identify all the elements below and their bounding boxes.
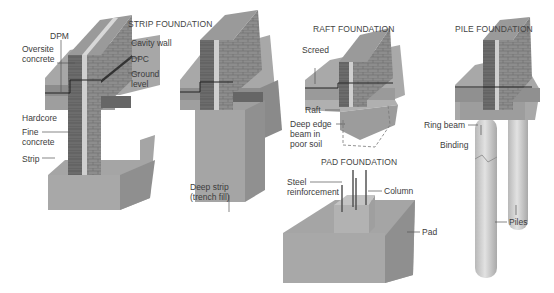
label-ring-beam: Ring beam [424, 120, 465, 130]
pad-foundation-title: PAD FOUNDATION [321, 157, 397, 167]
label-deep-edge-beam-2: beam in [290, 129, 320, 139]
label-oversite-2: concrete [22, 54, 55, 64]
strip-foundation-title: STRIP FOUNDATION [128, 19, 212, 29]
label-steel-reinforcement-2: reinforcement [287, 187, 339, 197]
label-raft: Raft [305, 105, 321, 115]
label-pad: Pad [422, 227, 437, 237]
foundations-illustration [0, 0, 554, 293]
label-deep-edge-beam-3: poor soil [290, 139, 322, 149]
label-ground-level-2: level [131, 79, 148, 89]
label-fine-concrete-2: concrete [22, 137, 55, 147]
raft-foundation-title: RAFT FOUNDATION [313, 24, 394, 34]
label-steel-reinforcement: Steel [287, 177, 306, 187]
label-binding: Binding [440, 140, 468, 150]
label-piles: Piles [509, 217, 527, 227]
label-column: Column [384, 186, 413, 196]
label-strip: Strip [22, 154, 39, 164]
label-deep-strip-2: (trench fill) [190, 192, 230, 202]
label-hardcore: Hardcore [22, 113, 57, 123]
pile-foundation-title: PILE FOUNDATION [455, 24, 533, 34]
label-deep-edge-beam: Deep edge [290, 119, 332, 129]
label-dpc: DPC [131, 54, 149, 64]
label-fine-concrete: Fine [22, 127, 39, 137]
label-deep-strip: Deep strip [190, 182, 229, 192]
label-screed: Screed [302, 45, 329, 55]
label-ground-level: Ground [131, 69, 159, 79]
label-cavity-wall: Cavity wall [131, 38, 172, 48]
label-oversite: Oversite [22, 44, 54, 54]
label-dpm: DPM [50, 31, 69, 41]
